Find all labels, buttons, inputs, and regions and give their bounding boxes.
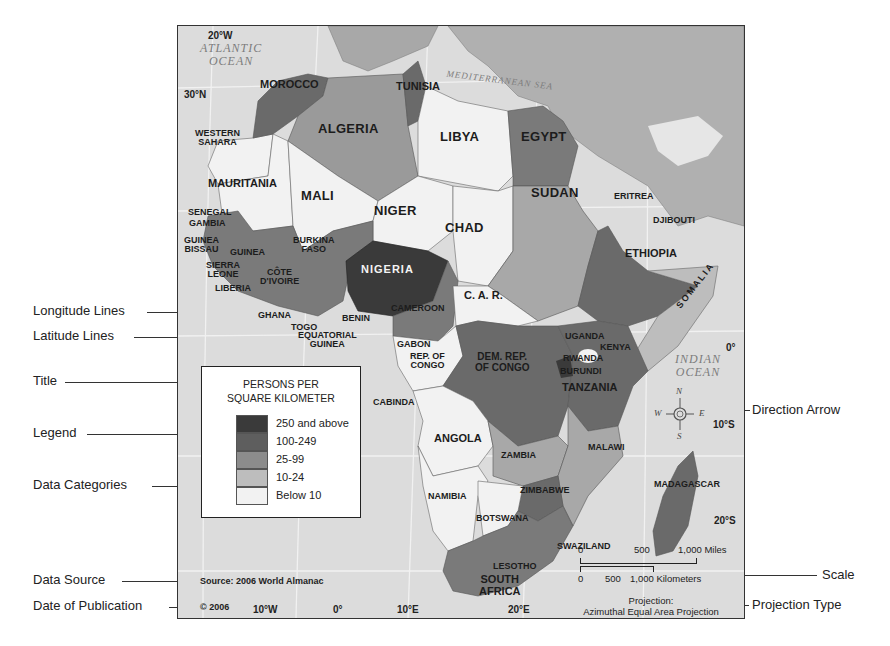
- scale-miles-0: 0: [578, 544, 583, 555]
- label-kenya: KENYA: [600, 343, 631, 352]
- label-burkina-faso: BURKINA FASO: [293, 236, 335, 255]
- copyright: © 2006: [200, 602, 229, 612]
- scale-km-1000: 1,000 Kilometers: [630, 573, 701, 584]
- label-niger: NIGER: [374, 204, 417, 218]
- label-cabinda: CABINDA: [373, 398, 415, 407]
- label-eq-guinea-line2: GUINEA: [298, 340, 357, 349]
- label-uganda: UGANDA: [565, 332, 605, 341]
- projection-line2: Azimuthal Equal Area Projection: [566, 607, 736, 618]
- label-algeria: ALGERIA: [318, 122, 379, 136]
- label-rwanda: RWANDA: [563, 354, 603, 363]
- scale-miles-1000: 1,000 Miles: [678, 544, 727, 555]
- legend-title: PERSONS PER SQUARE KILOMETER: [202, 377, 360, 405]
- label-cameroon: CAMEROON: [391, 304, 445, 313]
- legend-swatch: [236, 433, 268, 451]
- legend-label: Below 10: [276, 489, 321, 501]
- label-chad: CHAD: [445, 221, 484, 235]
- legend-title-line1: PERSONS PER: [202, 377, 360, 391]
- callout-data-categories: Data Categories: [33, 477, 127, 492]
- label-rep-congo: REP. OF CONGO: [410, 352, 445, 371]
- compass-s: S: [677, 431, 682, 441]
- label-sudan: SUDAN: [531, 186, 579, 200]
- ocean-label-indian: INDIAN OCEAN: [675, 353, 721, 379]
- label-burkina-faso-line2: FASO: [293, 245, 335, 254]
- scale-miles-500: 500: [634, 544, 650, 555]
- label-mali: MALI: [301, 189, 334, 203]
- scale-km-bar: [580, 566, 654, 572]
- callout-legend: Legend: [33, 425, 76, 440]
- callout-projection-type: Projection Type: [752, 597, 841, 612]
- africa-map-graphic: [178, 26, 744, 618]
- legend-label: 10-24: [276, 471, 304, 483]
- ocean-indian-line2: OCEAN: [675, 366, 721, 379]
- label-angola: ANGOLA: [434, 433, 482, 445]
- label-benin: BENIN: [342, 314, 370, 323]
- label-mauritania: MAURITANIA: [208, 178, 277, 190]
- label-burundi: BURUNDI: [560, 367, 602, 376]
- callout-scale: Scale: [822, 567, 855, 582]
- label-senegal: SENEGAL: [188, 208, 232, 217]
- projection-label: Projection: Azimuthal Equal Area Project…: [566, 596, 736, 618]
- coord-0-lat: 0°: [726, 342, 736, 353]
- data-source: Source: 2006 World Almanac: [200, 576, 324, 586]
- legend-row-10-24: 10-24: [236, 469, 356, 487]
- label-western-sahara-line2: SAHARA: [195, 138, 240, 147]
- compass-rose-icon: N S W E: [662, 390, 698, 440]
- coord-20w: 20°W: [208, 30, 233, 41]
- label-sierra-leone-line2: LEONE: [206, 270, 240, 279]
- coord-10s: 10°S: [713, 419, 735, 430]
- label-madagascar: MADAGASCAR: [654, 480, 720, 489]
- label-malawi: MALAWI: [588, 443, 625, 452]
- legend-swatch: [236, 487, 268, 505]
- label-drc-line2: OF CONGO: [475, 363, 529, 374]
- compass-e: E: [699, 408, 705, 418]
- compass-n: N: [676, 386, 682, 396]
- legend-swatch: [236, 451, 268, 469]
- legend-row-250-above: 250 and above: [236, 415, 356, 433]
- label-rep-congo-line2: CONGO: [410, 361, 445, 370]
- label-namibia: NAMIBIA: [428, 492, 467, 501]
- ocean-label-atlantic: ATLANTIC OCEAN: [200, 42, 262, 68]
- legend-row-below-10: Below 10: [236, 487, 356, 505]
- label-tunisia: TUNISIA: [396, 81, 440, 93]
- label-liberia: LIBERIA: [215, 284, 251, 293]
- label-gambia: GAMBIA: [189, 219, 226, 228]
- label-guinea: GUINEA: [230, 248, 265, 257]
- callout-direction-arrow: Direction Arrow: [752, 402, 840, 417]
- legend-label: 100-249: [276, 435, 316, 447]
- label-cote-divoire: CÔTE D'IVOIRE: [260, 268, 299, 287]
- label-zimbabwe: ZIMBABWE: [520, 486, 570, 495]
- legend-label: 250 and above: [276, 417, 349, 429]
- label-sierra-leone: SIERRA LEONE: [206, 261, 240, 280]
- callout-latitude-lines: Latitude Lines: [33, 328, 114, 343]
- legend-swatch: [236, 469, 268, 487]
- legend-row-25-99: 25-99: [236, 451, 356, 469]
- label-south-africa-line2: AFRICA: [479, 586, 521, 598]
- scale-bar: 0 500 1,000 Miles 0 500 1,000 Kilometers: [578, 542, 744, 602]
- coord-10w: 10°W: [253, 604, 278, 615]
- legend-label: 25-99: [276, 453, 304, 465]
- label-ethiopia: ETHIOPIA: [625, 248, 677, 260]
- label-libya: LIBYA: [440, 130, 479, 144]
- compass-w: W: [654, 408, 662, 418]
- label-guinea-bissau: GUINEA BISSAU: [184, 236, 219, 255]
- label-djibouti: DJIBOUTI: [653, 216, 695, 225]
- label-equatorial-guinea: EQUATORIAL GUINEA: [298, 331, 357, 350]
- label-lesotho: LESOTHO: [493, 562, 537, 571]
- label-car: C. A. R.: [464, 290, 503, 302]
- legend-row-100-249: 100-249: [236, 433, 356, 451]
- ocean-atlantic-line2: OCEAN: [200, 55, 262, 68]
- coord-20s: 20°S: [714, 515, 736, 526]
- label-botswana: BOTSWANA: [476, 514, 529, 523]
- label-drc-line1: DEM. REP.: [475, 352, 529, 363]
- label-tanzania: TANZANIA: [562, 382, 617, 394]
- callout-legend-line: [87, 434, 188, 435]
- label-gabon: GABON: [397, 340, 431, 349]
- scale-miles-bar: [580, 558, 697, 564]
- label-western-sahara: WESTERN SAHARA: [195, 129, 240, 148]
- label-drc: DEM. REP. OF CONGO: [475, 352, 529, 373]
- coord-0-lon: 0°: [333, 604, 343, 615]
- label-nigeria: NIGERIA: [361, 264, 414, 276]
- label-zambia: ZAMBIA: [501, 451, 536, 460]
- callout-data-source: Data Source: [33, 572, 105, 587]
